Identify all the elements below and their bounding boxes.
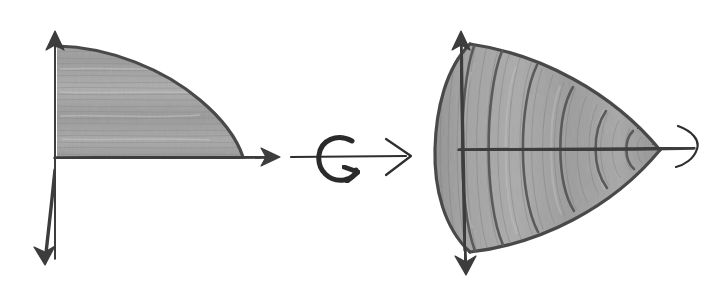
- left-figure-group: [34, 31, 280, 265]
- left-y-axis-line: [55, 40, 56, 258]
- left-region-fill: [50, 38, 250, 164]
- sketch-canvas: Solid of revolution formed by rotating a…: [0, 0, 714, 302]
- right-x-axis-line: [459, 148, 694, 150]
- transform-arrow-group: [291, 138, 411, 181]
- right-y-axis-lower-tail: [465, 250, 466, 272]
- right-figure-group: [428, 31, 698, 275]
- revolve-loop-arrowhead-icon: [344, 167, 358, 181]
- pencil-sketch: [0, 0, 714, 302]
- rotation-arrow-shaft: [291, 156, 406, 157]
- left-x-axis-line: [55, 157, 272, 158]
- revolve-loop-icon: [319, 138, 356, 181]
